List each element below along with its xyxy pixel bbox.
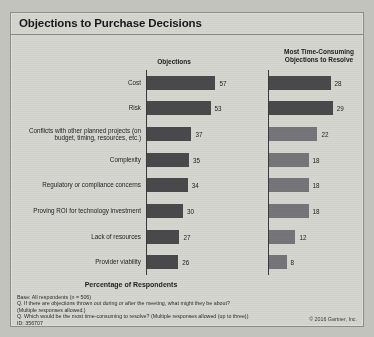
bar — [269, 101, 333, 115]
chart-row: 8 — [259, 249, 363, 275]
bar-value-label: 22 — [321, 131, 328, 138]
chart-right-heading: Most Time-ConsumingObjections to Resolve — [261, 48, 374, 64]
bar — [269, 230, 295, 244]
footnotes: Base: All respondents (n = 506)Q. If the… — [17, 294, 359, 326]
bar-value-label: 29 — [337, 105, 344, 112]
chart-row: 22 — [259, 121, 363, 147]
category-label: Proving ROI for technology investment — [17, 207, 141, 214]
chart-right-heading-line: Objections to Resolve — [261, 56, 374, 64]
chart-row: Risk53 — [17, 96, 235, 122]
bar — [147, 76, 215, 90]
bar — [147, 101, 211, 115]
bar-value-label: 8 — [291, 259, 295, 266]
category-label: Regulatory or compliance concerns — [17, 182, 141, 189]
bar-value-label: 30 — [187, 207, 194, 214]
bar-value-label: 53 — [215, 105, 222, 112]
chart-left-heading: Objections — [129, 58, 219, 66]
page-title: Objections to Purchase Decisions — [19, 17, 202, 29]
bar-value-label: 35 — [193, 156, 200, 163]
chart-row: 12 — [259, 224, 363, 250]
x-axis-title: Percentage of Respondents — [11, 281, 251, 288]
bar-value-label: 57 — [219, 79, 226, 86]
chart-row: Cost57 — [17, 70, 235, 96]
chart-row: Conflicts with other planned projects (o… — [17, 121, 235, 147]
bar-value-label: 18 — [313, 207, 320, 214]
bar — [269, 76, 331, 90]
chart-row: Lack of resources27 — [17, 224, 235, 250]
bar — [269, 204, 309, 218]
bar — [147, 127, 191, 141]
bar — [269, 255, 287, 269]
bar — [269, 178, 309, 192]
category-label: Risk — [17, 105, 141, 112]
bar — [147, 204, 183, 218]
chart-row: 28 — [259, 70, 363, 96]
bar — [147, 230, 179, 244]
category-label: Provider viability — [17, 258, 141, 265]
bar-value-label: 28 — [335, 79, 342, 86]
chart-row: Provider viability26 — [17, 249, 235, 275]
bar-value-label: 26 — [182, 259, 189, 266]
bar-value-label: 27 — [183, 233, 190, 240]
bar-value-label: 12 — [299, 233, 306, 240]
chart-row: Complexity35 — [17, 147, 235, 173]
chart-most-time-consuming: 282922181818128 — [259, 70, 363, 275]
chart-right-heading-line: Most Time-Consuming — [261, 48, 374, 56]
chart-row: 18 — [259, 147, 363, 173]
scanned-page: Objections to Purchase Decisions Objecti… — [0, 0, 374, 337]
bar-value-label: 18 — [313, 156, 320, 163]
bar — [269, 127, 317, 141]
chart-row: Proving ROI for technology investment30 — [17, 198, 235, 224]
chart-row: 29 — [259, 96, 363, 122]
chart-row: Regulatory or compliance concerns34 — [17, 173, 235, 199]
slide-title-bar: Objections to Purchase Decisions — [11, 13, 363, 35]
chart-row: 18 — [259, 173, 363, 199]
chart-row: 18 — [259, 198, 363, 224]
category-label: Lack of resources — [17, 233, 141, 240]
bar — [147, 255, 178, 269]
bar — [269, 153, 309, 167]
copyright-notice: © 2016 Gartner, Inc. — [309, 316, 357, 322]
slide-card: Objections to Purchase Decisions Objecti… — [10, 12, 364, 327]
bar — [147, 178, 188, 192]
slide-id: ID: 356707 — [17, 320, 359, 326]
category-label: Conflicts with other planned projects (o… — [17, 127, 141, 142]
category-label: Cost — [17, 79, 141, 86]
bar-value-label: 18 — [313, 182, 320, 189]
category-label: Complexity — [17, 156, 141, 163]
bar — [147, 153, 189, 167]
bar-value-label: 34 — [192, 182, 199, 189]
chart-objections: Cost57Risk53Conflicts with other planned… — [17, 70, 235, 275]
bar-value-label: 37 — [195, 131, 202, 138]
